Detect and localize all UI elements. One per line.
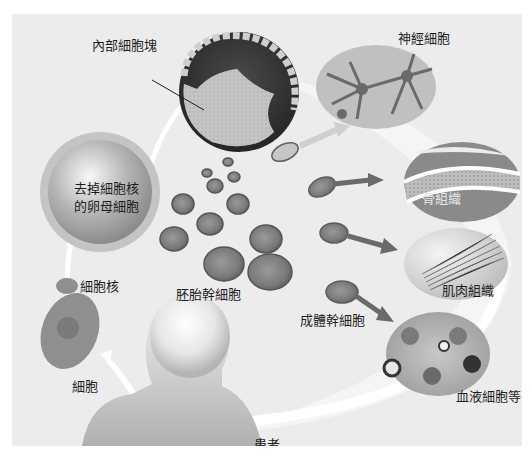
diagram-panel: 內部細胞塊 去掉細胞核 的卵母細胞 細胞核 細胞 胚胎幹細胞 成體幹細胞 患者 … bbox=[12, 14, 522, 446]
label-bone-tissue: 骨組織 bbox=[422, 192, 461, 205]
label-cell: 細胞 bbox=[72, 380, 98, 393]
label-enucleated-egg-line1: 去掉細胞核 bbox=[74, 182, 139, 195]
label-embryonic-stem-cells: 胚胎幹細胞 bbox=[176, 288, 241, 301]
label-enucleated-egg-line2: 的卵母細胞 bbox=[74, 200, 139, 213]
label-nerve-cells: 神經細胞 bbox=[398, 32, 450, 45]
label-adult-stem-cells: 成體幹細胞 bbox=[300, 314, 365, 327]
label-nucleus: 細胞核 bbox=[80, 280, 119, 293]
label-inner-cell-mass: 內部細胞塊 bbox=[92, 39, 157, 52]
label-muscle-tissue: 肌肉組織 bbox=[442, 284, 494, 297]
label-blood-cells: 血液細胞等 bbox=[456, 390, 521, 403]
label-patient: 患者 bbox=[254, 438, 280, 446]
